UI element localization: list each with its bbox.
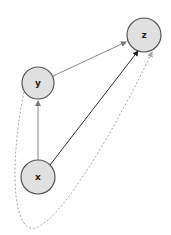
node-y-label: y	[35, 78, 41, 88]
node-x: x	[21, 160, 55, 194]
node-y: y	[22, 67, 54, 99]
node-z-label: z	[141, 30, 146, 40]
node-z: z	[127, 18, 161, 52]
causal-diagram: z y x	[0, 0, 171, 235]
node-x-label: x	[35, 172, 41, 182]
edge-x-z	[50, 51, 138, 165]
edge-y-z	[53, 42, 126, 76]
